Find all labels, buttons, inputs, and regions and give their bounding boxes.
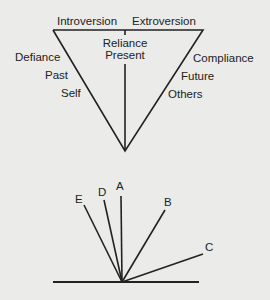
label-self: Self: [61, 87, 81, 99]
line-d: [104, 200, 122, 282]
line-b: [122, 210, 165, 282]
label-d: D: [98, 186, 106, 198]
label-compliance: Compliance: [193, 52, 254, 64]
label-b: B: [164, 196, 172, 208]
label-reliance: Reliance: [100, 37, 150, 49]
label-a: A: [116, 180, 124, 192]
line-e: [84, 205, 122, 282]
label-future: Future: [181, 70, 214, 82]
label-others: Others: [168, 88, 203, 100]
label-extroversion: Extroversion: [132, 15, 196, 27]
line-c: [122, 254, 203, 282]
label-c: C: [205, 241, 213, 253]
line-a: [121, 196, 122, 282]
label-e: E: [75, 193, 83, 205]
label-past: Past: [45, 69, 68, 81]
label-defiance: Defiance: [15, 51, 60, 63]
label-present: Present: [100, 49, 150, 61]
label-introversion: Introversion: [57, 15, 117, 27]
